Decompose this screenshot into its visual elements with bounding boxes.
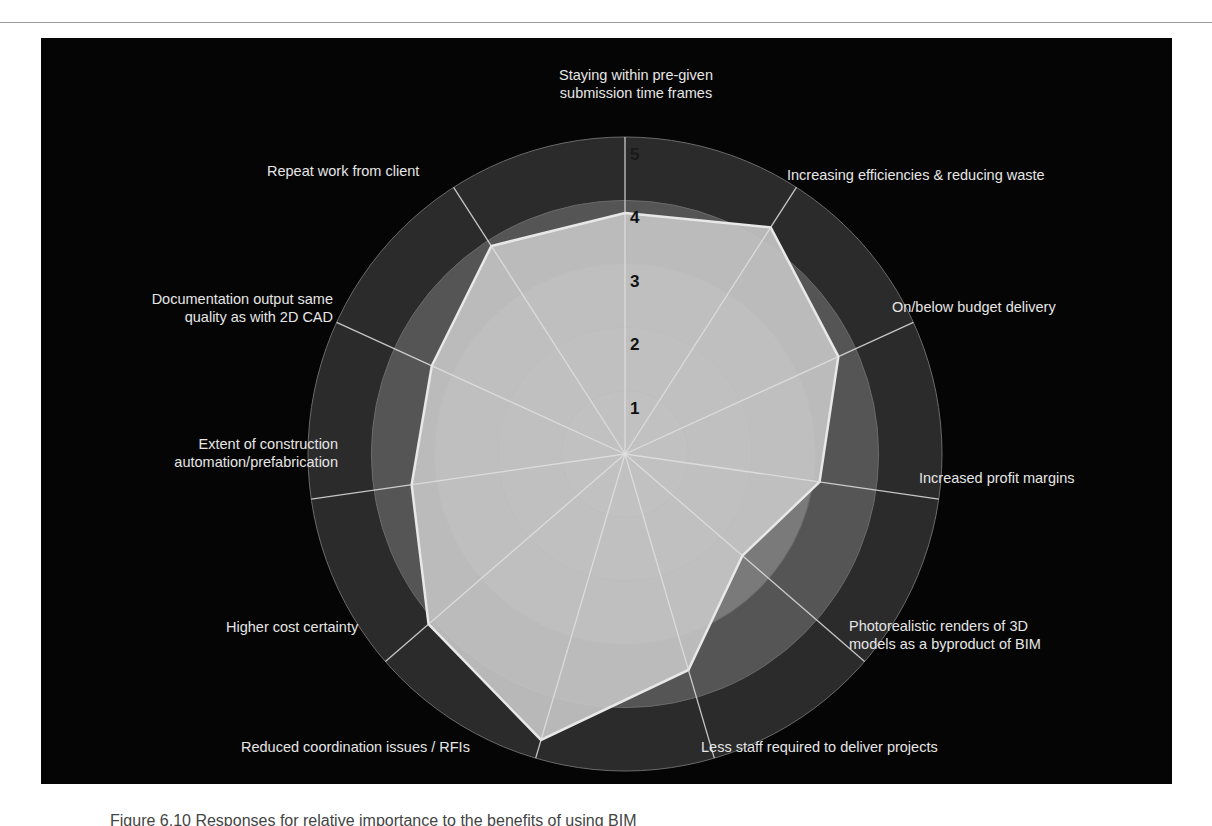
- tick-label-2: 2: [630, 335, 639, 354]
- axis-label-coordination: Reduced coordination issues / RFIs: [241, 738, 470, 756]
- radar-chart: 12345: [41, 38, 1172, 784]
- axis-label-cost: Higher cost certainty: [226, 618, 358, 636]
- tick-label-1: 1: [630, 399, 639, 418]
- tick-label-3: 3: [630, 272, 639, 291]
- axis-label-documentation: Documentation output samequality as with…: [93, 290, 333, 326]
- tick-label-4: 4: [630, 208, 640, 227]
- axis-label-photo: Photorealistic renders of 3Dmodels as a …: [849, 617, 1041, 653]
- axis-label-top: Staying within pre-givensubmission time …: [511, 66, 761, 102]
- axis-label-repeat: Repeat work from client: [267, 162, 419, 180]
- axis-label-construction: Extent of constructionautomation/prefabr…: [101, 435, 338, 471]
- axis-label-efficiency: Increasing efficiencies & reducing waste: [787, 166, 1045, 184]
- axis-label-staff: Less staff required to deliver projects: [701, 738, 938, 756]
- axis-label-profit: Increased profit margins: [919, 469, 1075, 487]
- chart-panel: 12345 Staying within pre-givensubmission…: [41, 38, 1172, 784]
- axis-label-budget: On/below budget delivery: [892, 298, 1056, 316]
- tick-label-5: 5: [630, 145, 639, 164]
- figure-caption: Figure 6.10 Responses for relative impor…: [110, 812, 1110, 826]
- top-rule: [0, 22, 1212, 23]
